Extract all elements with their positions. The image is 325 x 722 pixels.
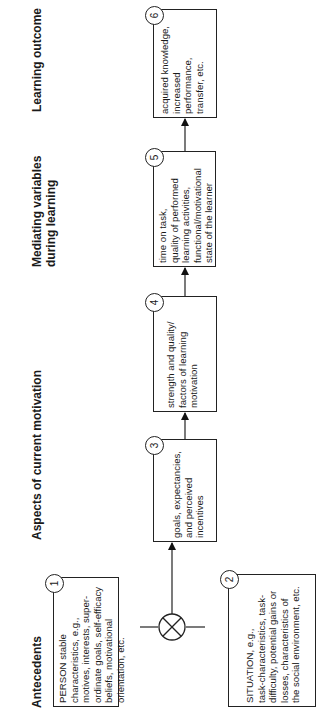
box-motivation-strength: strength and quality/ factors of learnin… bbox=[153, 296, 217, 412]
box-learning-outcome: acquired knowledge, increased performanc… bbox=[153, 9, 217, 118]
step-badge-5: 5 bbox=[145, 148, 164, 167]
step-badge-6: 6 bbox=[145, 6, 164, 25]
box-goals-expectancies: goals, expectancies, and perceived incen… bbox=[153, 439, 217, 542]
box-situation-text: SITUATION, e.g., task-characteristics, t… bbox=[232, 579, 302, 703]
box-goals-text: goals, expectancies, and perceived incen… bbox=[157, 444, 206, 538]
box-outcome-text: acquired knowledge, increased performanc… bbox=[157, 14, 205, 114]
diagram-canvas: Antecedents Aspects of current motivatio… bbox=[0, 0, 325, 722]
step-badge-3: 3 bbox=[145, 436, 164, 455]
step-badge-1: 1 bbox=[45, 574, 64, 593]
box-person-text: PERSON stable characteristics, e.g., mot… bbox=[57, 582, 127, 703]
step-badge-4: 4 bbox=[145, 293, 164, 312]
box-motivation-text: strength and quality/ factors of learnin… bbox=[157, 301, 200, 408]
interaction-operator-icon bbox=[159, 614, 185, 640]
box-mediating-variables: time on task, quality of performed learn… bbox=[153, 151, 216, 267]
box-mediating-text: time on task, quality of performed learn… bbox=[157, 156, 215, 263]
box-person: PERSON stable characteristics, e.g., mot… bbox=[53, 577, 119, 707]
step-badge-2: 2 bbox=[220, 570, 239, 589]
box-situation: SITUATION, e.g., task-characteristics, t… bbox=[228, 574, 316, 707]
